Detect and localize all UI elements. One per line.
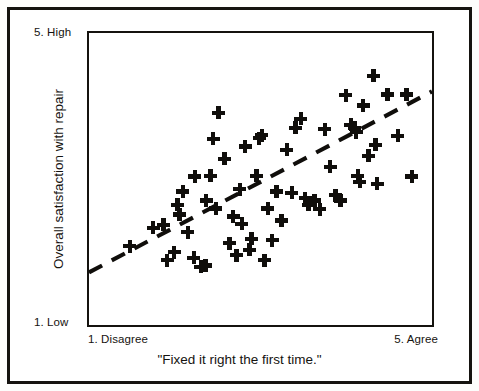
y-axis-title: Overall satisfaction with repair: [51, 31, 71, 327]
scatter-point: [353, 175, 366, 188]
scatter-point: [324, 160, 337, 173]
scatter-point: [258, 254, 271, 267]
scatter-point: [255, 129, 268, 142]
scatter-point: [233, 183, 246, 196]
scatter-point: [204, 169, 217, 182]
scatter-point: [275, 214, 288, 227]
scatter-point: [168, 246, 181, 259]
scatter-point: [157, 218, 170, 231]
scatter-point: [250, 169, 263, 182]
scatter-point: [212, 106, 225, 119]
scatter-point: [230, 249, 243, 262]
scatter-point: [173, 208, 186, 221]
scatter-point: [405, 170, 418, 183]
x-axis-high-label: 5. Agree: [394, 333, 438, 345]
scatter-point: [285, 186, 298, 199]
plot-area: [87, 31, 434, 327]
scatter-point: [199, 259, 212, 272]
scatter-point: [123, 240, 136, 253]
scatter-point: [362, 149, 375, 162]
scatter-point: [239, 140, 252, 153]
scatter-points: [89, 33, 432, 325]
scatter-point: [207, 132, 220, 145]
scatter-point: [245, 232, 258, 245]
scatter-point: [318, 123, 331, 136]
scatter-point: [218, 152, 231, 165]
scatter-point: [381, 88, 394, 101]
scatter-point: [367, 69, 380, 82]
scatter-point: [235, 217, 248, 230]
x-axis-low-label: 1. Disagree: [88, 333, 148, 345]
scatter-point: [334, 194, 347, 207]
scatter-point: [181, 226, 194, 239]
scatter-point: [280, 143, 293, 156]
scatter-point: [270, 185, 283, 198]
scatter-point: [243, 243, 256, 256]
scatter-point: [400, 88, 413, 101]
scatter-point: [209, 202, 222, 215]
scatter-point: [350, 126, 363, 139]
figure-container: 5. High 1. Low 1. Disagree 5. Agree "Fix…: [0, 0, 479, 391]
scatter-point: [371, 177, 384, 190]
scatter-point: [357, 99, 370, 112]
scatter-point: [294, 112, 307, 125]
scatter-point: [339, 89, 352, 102]
scatter-point: [313, 203, 326, 216]
scatter-point: [266, 234, 279, 247]
scatter-point: [369, 138, 382, 151]
scatter-point: [391, 129, 404, 142]
scatter-point: [261, 202, 274, 215]
x-axis-title: "Fixed it right the first time.": [0, 352, 479, 367]
scatter-point: [188, 170, 201, 183]
scatter-point: [176, 185, 189, 198]
